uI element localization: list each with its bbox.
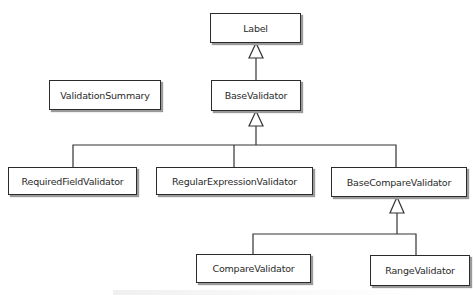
cropped-figure-caption xyxy=(113,290,413,295)
connector-lines xyxy=(0,0,475,295)
class-name: CompareValidator xyxy=(212,263,294,274)
class-name: RangeValidator xyxy=(385,265,454,276)
class-name: ValidationSummary xyxy=(60,90,149,101)
class-node-regularexpressionvalidator: RegularExpressionValidator xyxy=(156,167,313,195)
class-node-comparevalidator: CompareValidator xyxy=(196,254,311,283)
class-node-basecomparevalidator: BaseCompareValidator xyxy=(331,167,467,197)
inheritance-arrow-icon xyxy=(249,43,263,58)
class-node-basevalidator: BaseValidator xyxy=(211,80,301,111)
inheritance-arrow-icon xyxy=(390,197,404,213)
class-name: RegularExpressionValidator xyxy=(172,176,297,187)
class-node-validationsummary: ValidationSummary xyxy=(49,80,161,110)
class-node-requiredfieldvalidator: RequiredFieldValidator xyxy=(8,167,137,195)
inheritance-arrow-icon xyxy=(249,111,263,126)
class-hierarchy-diagram: Label ValidationSummary BaseValidator Re… xyxy=(0,0,475,295)
class-node-rangevalidator: RangeValidator xyxy=(370,255,470,286)
class-node-label: Label xyxy=(210,13,301,43)
class-name: BaseCompareValidator xyxy=(347,177,451,188)
class-name: Label xyxy=(243,23,268,34)
edge-bus-basecompare-children xyxy=(253,234,416,255)
class-name: BaseValidator xyxy=(225,90,288,101)
class-name: RequiredFieldValidator xyxy=(22,176,124,187)
